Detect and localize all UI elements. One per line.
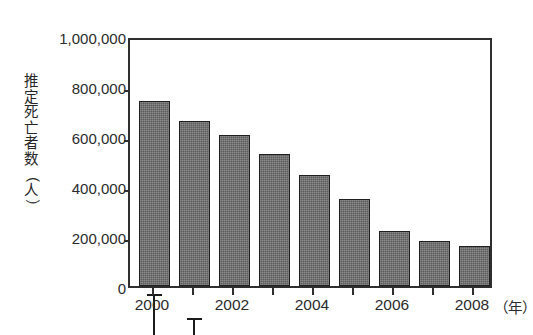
x-axis-tick-mark [392,288,394,295]
bar [379,231,410,286]
y-axis-tick-mark [124,240,130,242]
bar [219,135,250,286]
y-axis-tick-mark [124,190,130,192]
bar [459,246,490,287]
x-axis-tick-label: 2006 [352,296,432,314]
x-axis-tick-label: 2002 [192,296,272,314]
x-axis-tick-label: 2004 [272,296,352,314]
chart-figure: 推定死亡者数（人） 0200,000400,000600,000800,0001… [0,0,533,335]
plot-inner [130,40,490,286]
y-axis-tick-labels: 0200,000400,000600,000800,0001,000,000 [30,0,126,335]
bar [139,101,170,286]
bar [179,121,210,286]
x-axis-tick-mark [272,288,274,295]
y-axis-tick-label: 400,000 [34,180,126,197]
y-axis-tick-label: 600,000 [34,130,126,147]
error-bar-cap-upper [187,318,202,320]
x-axis-tick-label: 2000 [112,296,192,314]
x-axis-tick-mark [312,288,314,295]
x-axis-tick-mark [432,288,434,295]
error-bar-line [193,318,195,335]
x-axis-tick-mark [472,288,474,295]
x-axis-unit-label: （年） [494,296,533,317]
bar [339,199,370,287]
y-axis-tick-mark [124,90,130,92]
y-axis-tick-mark [124,140,130,142]
bar [259,154,290,287]
x-axis-tick-mark [352,288,354,295]
bar [299,175,330,286]
y-axis-tick-label: 1,000,000 [34,30,126,47]
y-axis-tick-label: 200,000 [34,230,126,247]
x-axis-tick-mark [232,288,234,295]
y-axis-tick-label: 0 [34,280,126,297]
x-axis-tick-mark [192,288,194,295]
plot-area [128,38,492,288]
bar [419,241,450,286]
x-axis-tick-mark [152,288,154,295]
y-axis-tick-label: 800,000 [34,80,126,97]
